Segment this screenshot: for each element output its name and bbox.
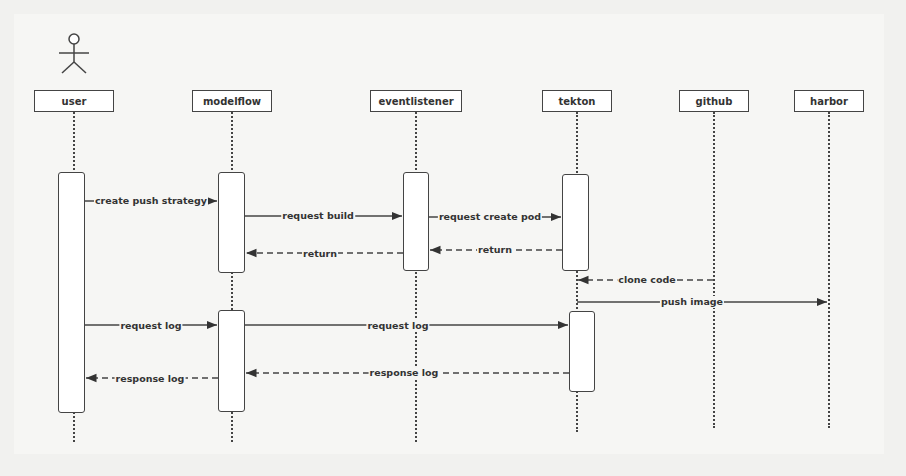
message-label-push-image: push image [660, 296, 724, 308]
message-label-return-tekton: return [477, 244, 513, 256]
sequence-diagram-canvas: user modelflow eventlistener tekton gith… [0, 0, 906, 476]
message-label-response-log-tekton: response log [369, 367, 440, 379]
message-arrows [0, 0, 906, 476]
message-label-request-log-modelflow: request log [366, 320, 429, 332]
message-label-response-log-user: response log [115, 373, 186, 385]
message-label-request-create-pod: request create pod [438, 211, 542, 223]
message-label-clone-code: clone code [617, 274, 676, 286]
message-label-request-build: request build [281, 210, 355, 222]
message-label-request-log-user: request log [119, 320, 182, 332]
message-label-return-eventlistener: return [302, 248, 338, 260]
message-label-create-push-strategy: create push strategy [94, 195, 208, 207]
